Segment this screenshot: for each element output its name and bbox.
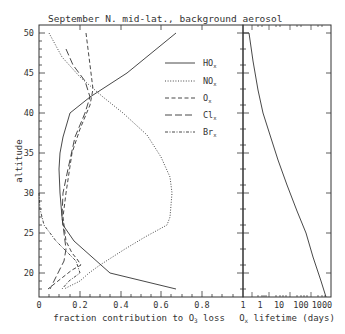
svg-text:50: 50: [24, 28, 34, 38]
series-ox-lifetime-line: [243, 33, 326, 297]
svg-text:100: 100: [293, 300, 308, 310]
legend-label-clx: Clx: [203, 110, 217, 121]
chart-title: September N. mid-lat., background aeroso…: [48, 13, 283, 24]
svg-text:1000: 1000: [312, 300, 332, 310]
svg-text:0.2: 0.2: [72, 300, 87, 310]
x-tick-labels-left: 0 0.2 0.4 0.6 0.8: [36, 300, 209, 310]
svg-text:40: 40: [24, 108, 34, 118]
y-axis-ticks: [39, 33, 331, 289]
legend-label-ox: Ox: [203, 93, 212, 104]
svg-text:0.4: 0.4: [113, 300, 128, 310]
legend-label-brx: Brx: [203, 127, 217, 138]
legend: [165, 63, 195, 132]
x-tick-labels-right: 1 1 10 100 1000: [240, 300, 332, 310]
svg-text:0: 0: [36, 300, 41, 310]
x-axis-label-left: fraction contribution to O3 loss: [53, 313, 225, 324]
series-hox-line: [59, 33, 176, 289]
legend-label-hox: HOx: [203, 58, 217, 69]
right-plot-frame: [243, 25, 331, 297]
y-tick-labels: 50 45 40 35 30 25 20: [24, 28, 34, 278]
x-axis-ticks-right: [252, 25, 325, 297]
svg-text:1: 1: [257, 300, 262, 310]
svg-text:30: 30: [24, 188, 34, 198]
series-ox-line: [48, 33, 93, 289]
y-axis-label: altitude: [14, 139, 24, 182]
legend-labels: HOx NOx Ox Clx Brx: [203, 58, 217, 138]
svg-text:0.6: 0.6: [153, 300, 168, 310]
svg-text:1: 1: [240, 300, 245, 310]
legend-label-nox: NOx: [203, 76, 217, 87]
svg-text:35: 35: [24, 148, 34, 158]
svg-text:10: 10: [274, 300, 284, 310]
x-axis-label-right: Ox lifetime (days): [239, 313, 335, 324]
chart-figure: September N. mid-lat., background aeroso…: [0, 0, 345, 334]
svg-text:25: 25: [24, 228, 34, 238]
series-nox-line: [49, 33, 172, 289]
svg-text:45: 45: [24, 68, 34, 78]
svg-text:0.8: 0.8: [194, 300, 209, 310]
svg-text:20: 20: [24, 268, 34, 278]
